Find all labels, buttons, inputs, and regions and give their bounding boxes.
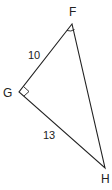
side-label-fg: 10: [28, 49, 40, 61]
vertex-label-g: G: [3, 86, 12, 100]
triangle-fgh: [19, 24, 105, 168]
right-angle-marker: [24, 87, 30, 97]
triangle-diagram: F G H 10 13: [0, 0, 112, 190]
side-label-gh: 13: [43, 129, 55, 141]
vertex-label-f: F: [69, 5, 76, 19]
vertex-label-h: H: [101, 172, 110, 186]
